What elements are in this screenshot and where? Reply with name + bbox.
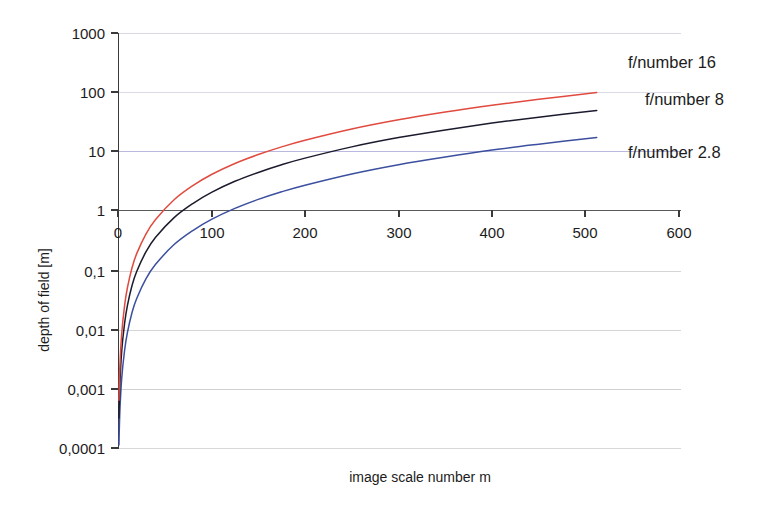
x-tick-label-300: 300 [386,224,411,241]
y-tick-label-0-0001: 0,0001 [59,440,105,457]
series-labels: f/number 16 f/number 8 f/number 2.8 [628,53,724,161]
y-tick-label-1000: 1000 [72,25,105,42]
x-tick-label-100: 100 [199,224,224,241]
depth-of-field-chart: 1000 100 10 1 0,1 0,01 0,001 0,0001 dept… [0,0,781,509]
y-tick-label-0-001: 0,001 [67,381,105,398]
data-series [119,93,597,446]
series-label-f8: f/number 8 [645,90,724,108]
x-axis-title: image scale number m [349,469,491,485]
y-tick-label-0-1: 0,1 [84,263,105,280]
chart-canvas: 1000 100 10 1 0,1 0,01 0,001 0,0001 dept… [0,0,781,509]
curve-f-number-8 [119,110,597,418]
series-label-f16: f/number 16 [628,53,716,71]
x-tick-label-500: 500 [572,224,597,241]
x-tick-label-600: 600 [666,224,691,241]
y-tick-label-0-01: 0,01 [76,322,105,339]
x-tick-label-0: 0 [114,224,122,241]
y-tick-label-100: 100 [80,84,105,101]
series-label-f28: f/number 2.8 [628,143,721,161]
y-tick-label-10: 10 [88,143,105,160]
y-axis: 1000 100 10 1 0,1 0,01 0,001 0,0001 dept… [36,25,119,457]
x-tick-label-400: 400 [479,224,504,241]
curve-f-number-2-8 [119,137,597,445]
y-tick-label-1: 1 [97,202,105,219]
curve-f-number-16 [119,93,597,401]
x-tick-label-200: 200 [292,224,317,241]
x-axis: 0 100 200 300 400 500 600 image scale nu… [114,210,692,485]
y-axis-title: depth of field [m] [36,248,52,352]
